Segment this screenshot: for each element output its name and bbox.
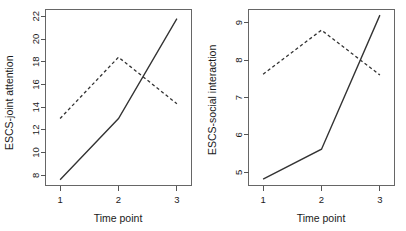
y-tick-label: 14 <box>30 102 41 113</box>
y-tick-label: 8 <box>30 173 41 178</box>
x-axis-title-left: Time point <box>94 212 143 224</box>
x-tick-label: 2 <box>116 194 121 205</box>
y-tick-label: 6 <box>233 132 244 137</box>
y-tick-label: 22 <box>30 11 41 22</box>
data-series-right <box>263 15 380 179</box>
figure-container: 810121416182022 123 ESCS-joint attention… <box>0 0 406 231</box>
y-tick-label: 18 <box>30 56 41 67</box>
plot-frame-right <box>249 10 395 186</box>
series-line-solid <box>263 15 380 179</box>
y-tick-label: 12 <box>30 125 41 136</box>
x-tick-label: 1 <box>260 194 265 205</box>
x-axis-right: 123 <box>260 186 382 206</box>
x-tick-label: 2 <box>319 194 324 205</box>
data-series-left <box>60 19 177 180</box>
y-tick-label: 10 <box>30 147 41 158</box>
chart-svg-right: 56789 123 ESCS-social interaction Time p… <box>203 0 406 231</box>
series-line-dashed <box>263 30 380 75</box>
x-tick-label: 3 <box>377 194 382 205</box>
series-line-dashed <box>60 57 177 118</box>
y-axis-left: 810121416182022 <box>30 11 45 178</box>
chart-svg-left: 810121416182022 123 ESCS-joint attention… <box>0 0 203 231</box>
plot-frame-left <box>46 10 192 186</box>
y-tick-label: 20 <box>30 34 41 45</box>
y-tick-label: 5 <box>233 170 244 175</box>
x-tick-label: 3 <box>174 194 179 205</box>
y-axis-title-right: ESCS-social interaction <box>206 45 218 155</box>
y-tick-label: 8 <box>233 57 244 62</box>
y-tick-label: 7 <box>233 95 244 100</box>
x-axis-title-right: Time point <box>297 212 346 224</box>
x-axis-left: 123 <box>57 186 179 206</box>
y-axis-title-left: ESCS-joint attention <box>3 55 15 150</box>
x-tick-label: 1 <box>57 194 62 205</box>
y-tick-label: 16 <box>30 79 41 90</box>
y-tick-label: 9 <box>233 20 244 25</box>
chart-panel-left: 810121416182022 123 ESCS-joint attention… <box>0 0 203 231</box>
chart-panel-right: 56789 123 ESCS-social interaction Time p… <box>203 0 406 231</box>
y-axis-right: 56789 <box>233 20 248 175</box>
